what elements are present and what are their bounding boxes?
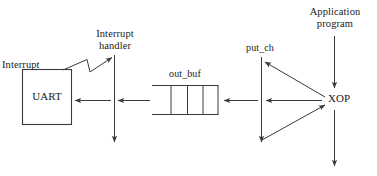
- uart-label: UART: [22, 91, 72, 103]
- arrow-putch-lower-to-xop: [262, 105, 325, 140]
- xop-label: XOP: [328, 93, 366, 105]
- put-ch-label: put_ch: [232, 42, 288, 54]
- application-program-label-line1: Application: [310, 6, 361, 17]
- diagram-canvas: UART Interrupt Interrupthandler out_buf …: [0, 0, 377, 176]
- interrupt-label: Interrupt: [2, 59, 64, 71]
- interrupt-handler-label: Interrupthandler: [78, 28, 152, 51]
- application-program-label-line2: program: [317, 18, 353, 29]
- interrupt-handler-label-line1: Interrupt: [96, 28, 134, 39]
- interrupt-handler-label-line2: handler: [99, 40, 131, 51]
- application-program-label: Applicationprogram: [300, 6, 370, 29]
- arrow-xop-to-putch-upper: [265, 62, 325, 97]
- out-buf-label: out_buf: [155, 68, 215, 80]
